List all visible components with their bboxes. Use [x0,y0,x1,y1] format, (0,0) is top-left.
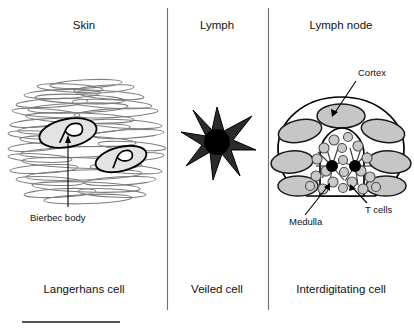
interdigitating-cell-left [326,160,338,172]
t-cells-label: T cells [365,204,393,215]
follicle-top [317,104,365,128]
skin-illustration: Bierbec body [8,78,166,223]
birbeck-body-label: Bierbec body [30,212,86,223]
panel-title-skin: Skin [73,19,95,31]
veiled-cell-nucleus [204,129,230,155]
figure-canvas: Skin Lymph Lymph node [0,0,414,331]
lymph-node-illustration: Cortex Medulla T cells [270,67,412,227]
panel-caption-veiled: Veiled cell [191,283,243,295]
veiled-cell-illustration [181,107,256,180]
panel-caption-interdigitating: Interdigitating cell [296,283,386,295]
panel-title-lymph: Lymph [200,19,234,31]
cortex-label: Cortex [358,67,386,78]
medulla-label: Medulla [289,216,323,227]
panel-caption-langerhans: Langerhans cell [43,283,124,295]
interdigitating-cell-right [349,160,361,172]
panel-title-lymph-node: Lymph node [310,19,373,31]
